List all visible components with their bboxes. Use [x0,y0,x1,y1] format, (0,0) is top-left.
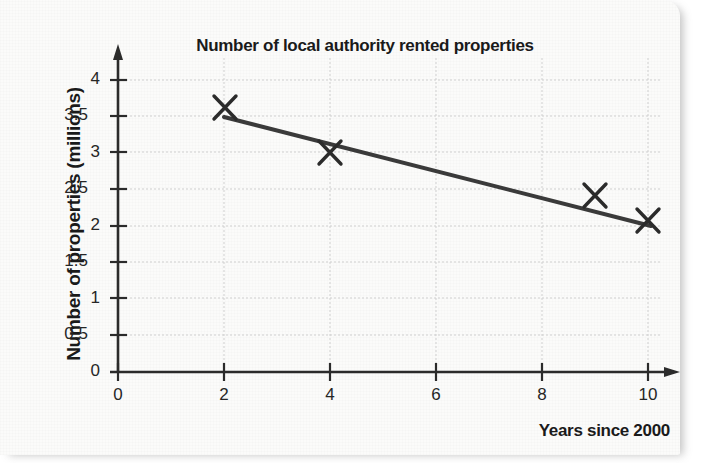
data-point-marker-3 [584,184,606,207]
y-axis [113,44,123,372]
line-of-best-fit [224,117,651,226]
x-axis-arrowhead-icon [664,367,680,377]
x-axis [110,367,680,377]
plot-area [0,0,712,463]
data-point-marker-4 [637,209,659,232]
vertical-gridlines [224,58,648,372]
chart-figure: Number of local authority rented propert… [0,0,712,463]
y-axis-arrowhead-icon [113,44,123,60]
